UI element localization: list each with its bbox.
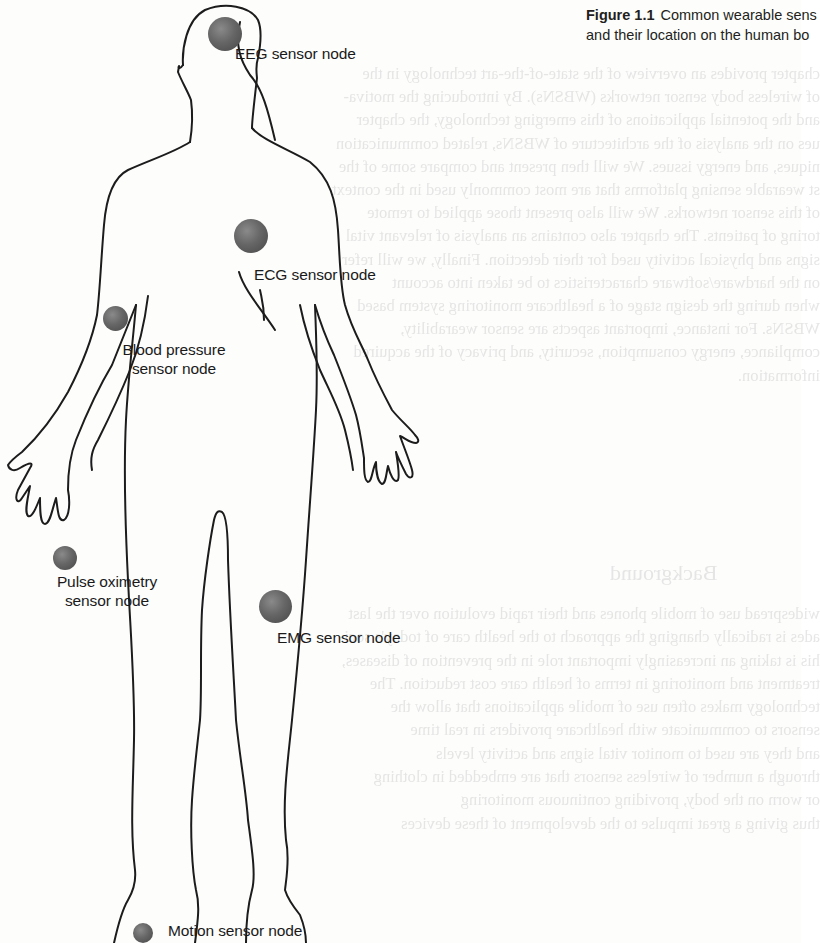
eeg-sensor-label: EEG sensor node <box>235 44 356 63</box>
emg-sensor-label: EMG sensor node <box>277 628 400 647</box>
left-leg-outer <box>285 305 317 943</box>
ecg-sensor-node-icon <box>234 219 268 253</box>
left-arm-inner <box>300 305 353 470</box>
pulse-oximetry-label-line1: Pulse oximetry <box>38 572 176 591</box>
pulse-oximetry-label-line2: sensor node <box>38 591 176 610</box>
blood-pressure-sensor-label: Blood pressure sensor node <box>104 340 244 378</box>
blood-pressure-label-line2: sensor node <box>104 359 244 378</box>
emg-sensor-node-icon <box>259 590 292 623</box>
blood-pressure-label-line1: Blood pressure <box>104 340 244 359</box>
pulse-oximetry-sensor-label: Pulse oximetry sensor node <box>38 572 176 610</box>
figure-caption: Figure 1.1Common wearable sens and their… <box>586 5 817 45</box>
head-left-contour <box>178 65 192 142</box>
blood-pressure-sensor-node-icon <box>103 306 128 331</box>
motion-sensor-node-icon <box>133 923 153 943</box>
caption-line2: and their location on the human bo <box>586 25 817 45</box>
left-arm-outer <box>252 128 418 484</box>
ecg-sensor-label: ECG sensor node <box>254 265 376 284</box>
caption-line1: Common wearable sens <box>661 7 817 23</box>
inner-legs <box>191 511 253 943</box>
right-arm-outer <box>8 142 190 524</box>
pulse-oximetry-sensor-node-icon <box>53 546 77 570</box>
ecg-leader-line-2 <box>260 290 264 320</box>
motion-sensor-label: Motion sensor node <box>168 921 302 940</box>
figure-number: Figure 1.1 <box>586 7 655 23</box>
